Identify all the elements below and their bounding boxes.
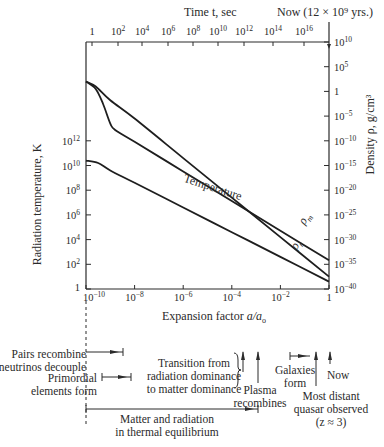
- bottom-tick-label: 10−4: [223, 290, 242, 303]
- right-tick-label: 10−20: [334, 183, 356, 196]
- top-tick-label: 106: [161, 24, 176, 37]
- left-tick-label: 1: [75, 282, 80, 293]
- top-tick-label: 1010: [209, 24, 227, 37]
- bottom-tick-label: 10−6: [174, 290, 193, 303]
- annotation-now: Now: [327, 369, 349, 382]
- now-bottom-arrow-icon: [328, 351, 332, 360]
- left-tick-label: 104: [66, 233, 81, 246]
- quasar-arrow-icon: [314, 351, 318, 360]
- right-tick-label: 10−5: [334, 109, 353, 122]
- now-top-label: Now (12 × 10⁹ yrs.): [277, 6, 373, 19]
- left-tick-label: 106: [66, 208, 81, 221]
- top-tick-label: 1014: [264, 24, 282, 37]
- right-tick-label: 1010: [334, 35, 352, 48]
- annotation-galaxies-form: Galaxiesform: [270, 364, 320, 390]
- annotation-pairs-recombine: Pairs recombineneutrinos decouple: [0, 348, 86, 374]
- top-tick-label: 108: [186, 24, 201, 37]
- bottom-tick-label: 10−8: [125, 290, 144, 303]
- right-tick-label: 10−25: [334, 208, 356, 221]
- y-axis-left-title: Radiation temperature, K: [31, 130, 44, 280]
- left-tick-label: 108: [66, 183, 81, 196]
- plasma-arrow-icon: [256, 351, 260, 360]
- annotation-thermal-equilibrium: Matter and radiationin thermal equilibri…: [92, 413, 242, 439]
- top-tick-label: 104: [135, 24, 150, 37]
- top-axis-title: Time t, sec: [184, 6, 237, 19]
- right-tick-label: 10−40: [334, 282, 356, 295]
- top-tick-label: 1: [89, 26, 94, 37]
- x-axis-title: Expansion factor a/ao: [162, 310, 266, 327]
- annotation-primordial-elements: Primordialelements form: [0, 372, 97, 398]
- right-tick-label: 105: [334, 60, 349, 73]
- y-axis-right-title: Density ρ, g/cm³: [364, 65, 377, 205]
- bottom-tick-label: 1: [326, 292, 331, 303]
- left-tick-label: 102: [66, 257, 81, 270]
- right-tick-label: 10−35: [334, 257, 356, 270]
- axis-ticks: 1102104106108101010121014101610−1010−810…: [62, 24, 356, 303]
- galaxies-arrow-icon: [298, 354, 307, 358]
- annotation-quasar: Most distantquasar observed(z ≈ 3): [276, 390, 384, 429]
- top-tick-label: 1016: [295, 24, 313, 37]
- left-tick-label: 1010: [62, 159, 80, 172]
- top-tick-label: 1012: [235, 24, 253, 37]
- right-tick-label: 10−30: [334, 233, 356, 246]
- bottom-tick-label: 10−2: [271, 290, 290, 303]
- right-tick-label: 1: [334, 86, 339, 97]
- primordial-arrow-icon: [118, 375, 127, 379]
- right-tick-label: 10−10: [334, 134, 356, 147]
- left-tick-label: 1012: [62, 134, 80, 147]
- top-tick-label: 102: [111, 24, 126, 37]
- pairs-arrow-icon: [110, 350, 119, 354]
- now-arrow-icon: [327, 44, 331, 49]
- right-tick-label: 10−15: [334, 159, 356, 172]
